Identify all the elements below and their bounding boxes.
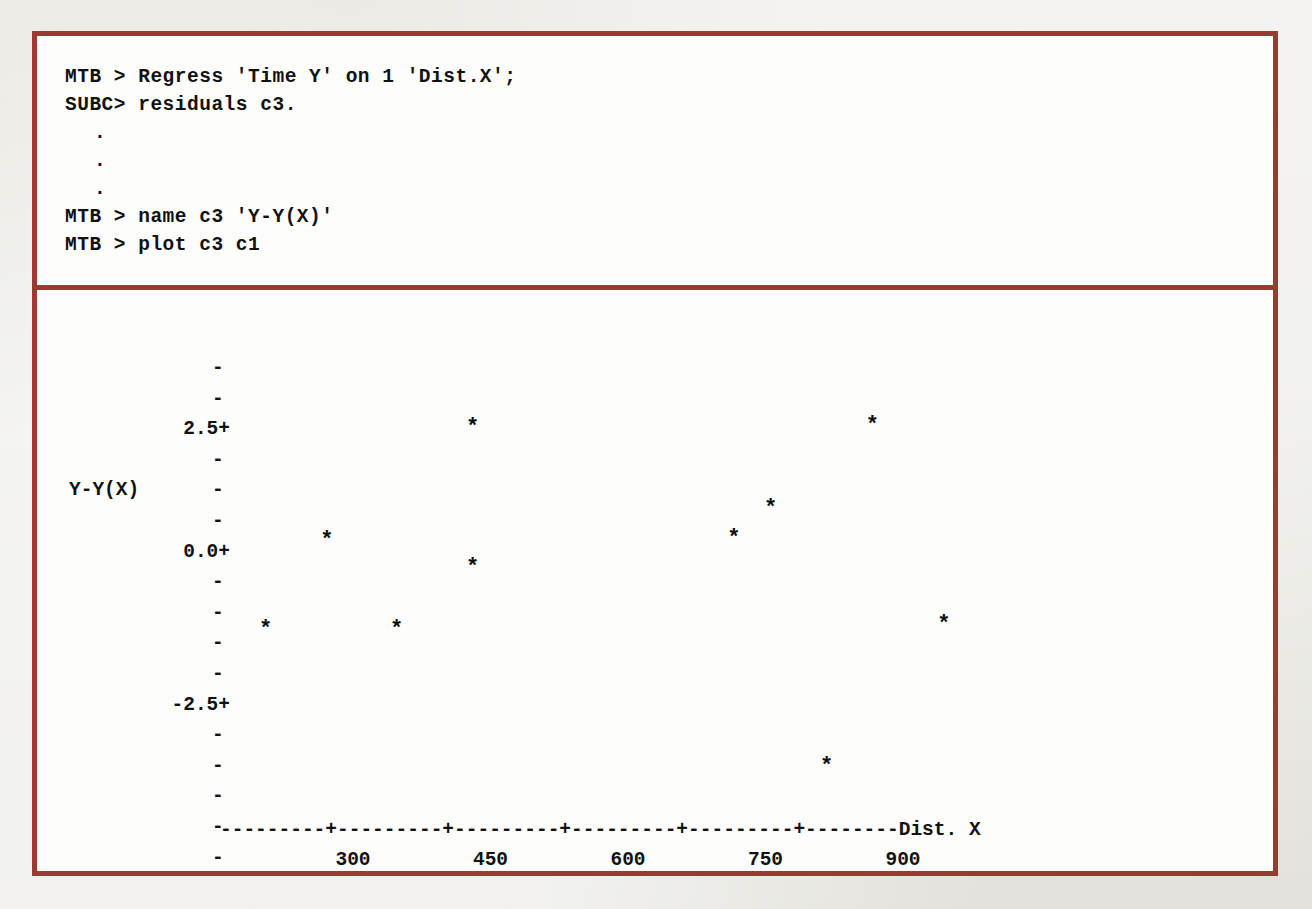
ellipsis-dot-3: . (65, 175, 1273, 203)
command-line-regress: MTB > Regress 'Time Y' on 1 'Dist.X'; (65, 63, 1273, 91)
command-line-subc: SUBC> residuals c3. (65, 91, 1273, 119)
ascii-scatter-plot: --2.5+---0.0+-----2.5+-------Y-Y(X)*****… (37, 290, 1273, 871)
y-axis-minor-tick: - (212, 757, 224, 777)
data-point-marker: * (820, 756, 833, 778)
y-axis-tick-label: -2.5+ (97, 696, 230, 716)
y-axis-minor-tick: - (212, 451, 224, 471)
y-axis-minor-tick: - (212, 787, 224, 807)
figure-frame: MTB > Regress 'Time Y' on 1 'Dist.X'; SU… (32, 31, 1278, 876)
y-axis-minor-tick: - (212, 665, 224, 685)
y-axis-minor-tick: - (212, 634, 224, 654)
data-point-marker: * (764, 498, 777, 520)
data-point-marker: * (259, 619, 272, 641)
y-axis-minor-tick: - (212, 481, 224, 501)
command-line-plot: MTB > plot c3 c1 (65, 231, 1273, 259)
command-line-name: MTB > name c3 'Y-Y(X)' (65, 203, 1273, 231)
y-axis-minor-tick: - (212, 604, 224, 624)
y-axis-minor-tick: - (212, 359, 224, 379)
x-axis-tick-label: 750 (721, 851, 811, 871)
x-axis-tick-label: 900 (858, 851, 948, 871)
data-point-marker: * (866, 415, 879, 437)
data-point-marker: * (390, 619, 403, 641)
ellipsis-dot-2: . (65, 147, 1273, 175)
y-axis-minor-tick: - (212, 726, 224, 746)
minitab-console-panel: MTB > Regress 'Time Y' on 1 'Dist.X'; SU… (37, 36, 1273, 290)
y-axis-minor-tick: - (212, 512, 224, 532)
y-axis-tick-label: 2.5+ (97, 420, 230, 440)
data-point-marker: * (320, 530, 333, 552)
ellipsis-dot-1: . (65, 119, 1273, 147)
x-axis-rule: ---------+---------+---------+---------+… (220, 821, 981, 841)
x-axis-tick-label: 600 (583, 851, 673, 871)
x-axis-tick-label: 450 (446, 851, 536, 871)
data-point-marker: * (466, 417, 479, 439)
y-axis-label: Y-Y(X) (69, 481, 139, 501)
y-axis-minor-tick: - (212, 849, 224, 869)
x-axis-tick-label: 300 (308, 851, 398, 871)
y-axis-minor-tick: - (212, 573, 224, 593)
data-point-marker: * (466, 557, 479, 579)
y-axis-tick-label: 0.0+ (97, 543, 230, 563)
y-axis-minor-tick: - (212, 390, 224, 410)
data-point-marker: * (937, 614, 950, 636)
data-point-marker: * (727, 528, 740, 550)
